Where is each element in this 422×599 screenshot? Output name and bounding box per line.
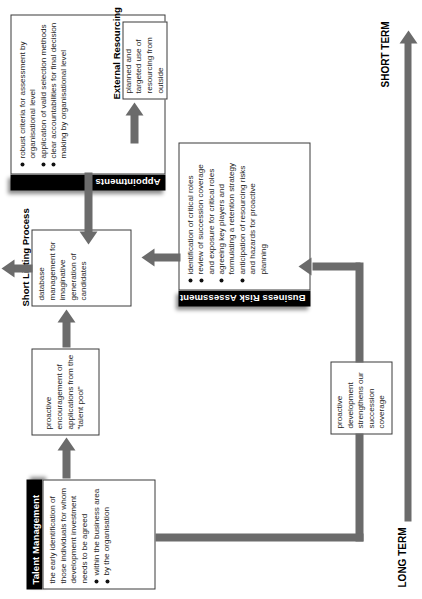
list-item: application of valid selection methods	[38, 22, 48, 166]
list-item: review of succession coverage and exposu…	[195, 150, 216, 282]
timeline-start-label: LONG TERM	[396, 527, 407, 587]
short-listing-process-body: database management for imaginative gene…	[36, 235, 89, 300]
talent-management-title: Talent Management	[29, 494, 40, 584]
list-item: by the organisation	[101, 485, 111, 583]
proactive-encouragement-text: proactive encouragement of applications …	[43, 354, 85, 429]
arrow-talent-to-encouragement	[56, 436, 76, 478]
external-resourcing-body: planned and targeted use of resourcing f…	[123, 27, 165, 93]
talent-management-body: the early identification of those indivi…	[47, 485, 89, 583]
talent-management-header: Talent Management	[26, 479, 42, 589]
external-resourcing-header: External Resourcing	[110, 7, 121, 99]
business-risk-assessment-header: Business Risk Assessment	[178, 290, 310, 306]
arrow-shortlisting-to-appointments	[0, 258, 32, 278]
arrow-encouragement-to-shortlisting	[56, 307, 76, 347]
list-item: anticipation of resourcing risks and haz…	[237, 150, 268, 282]
external-resourcing-box: planned and targeted use of resourcing f…	[122, 21, 167, 99]
proactive-development-box: proactive development strengthens our su…	[330, 361, 392, 434]
list-item: clear accountabilities for final decisio…	[48, 22, 69, 166]
list-item: agreeing key players and formulating a r…	[216, 150, 237, 282]
arrow-risk-to-shortlisting	[140, 247, 180, 267]
list-item: identification of critical roles	[185, 150, 195, 282]
business-risk-assessment-bullets: identification of critical roles review …	[185, 150, 268, 282]
connector-talent-to-development	[155, 431, 363, 541]
arrow-risk-to-external	[124, 101, 144, 143]
business-risk-assessment-title: Business Risk Assessment	[179, 293, 305, 304]
list-item: within the business area	[91, 485, 101, 583]
appointments-title: Appointments	[95, 177, 160, 188]
short-listing-process-header: Short Listing Process	[19, 208, 30, 306]
talent-management-bullets: within the business area by the organisa…	[91, 485, 112, 583]
flowchart-canvas: Talent Management the early identificati…	[0, 0, 422, 599]
list-item: robust criteria for assessment by organi…	[17, 22, 38, 166]
proactive-encouragement-box: proactive encouragement of applications …	[31, 348, 99, 435]
timeline-end-label: SHORT TERM	[379, 21, 390, 87]
external-resourcing-title: External Resourcing	[110, 7, 121, 99]
timeline-arrow	[398, 23, 418, 521]
arrow-development-to-risk	[298, 252, 363, 362]
appointments-bullets: robust criteria for assessment by organi…	[17, 22, 69, 166]
proactive-development-text: proactive development strengthens our su…	[334, 367, 387, 428]
diagram-rotation-wrapper: Talent Management the early identificati…	[0, 0, 422, 599]
talent-management-box: the early identification of those indivi…	[42, 479, 155, 589]
arrow-external-to-appointments	[78, 172, 98, 244]
short-listing-process-title: Short Listing Process	[19, 208, 30, 306]
business-risk-assessment-box: identification of critical roles review …	[178, 142, 310, 290]
